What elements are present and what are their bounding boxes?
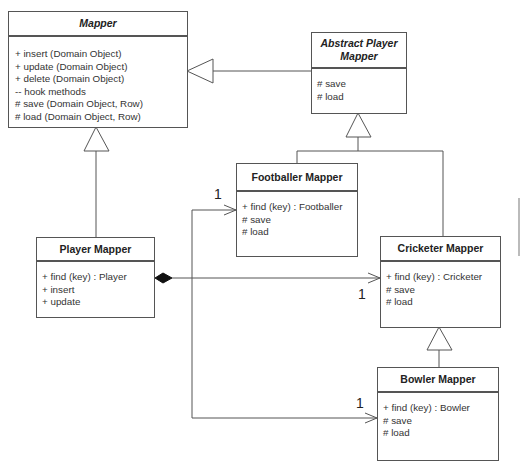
multiplicity-cricketer: 1	[358, 286, 366, 302]
multiplicity-footballer: 1	[214, 186, 222, 202]
class-mapper: Mapper + insert (Domain Object) + update…	[8, 11, 188, 128]
scan-edge-artifact	[518, 198, 520, 256]
class-name: Mapper	[9, 12, 187, 35]
class-bowler-mapper: Bowler Mapper + find (key) : Bowler # sa…	[377, 367, 499, 461]
operation: + update (Domain Object)	[15, 61, 187, 74]
class-cricketer-mapper: Cricketer Mapper + find (key) : Crickete…	[380, 236, 501, 328]
generalization-triangle-abstract-player	[346, 113, 371, 137]
multiplicity-bowler: 1	[356, 395, 364, 411]
operation: # save	[383, 415, 498, 428]
operation: # save	[317, 78, 406, 91]
operation: # load	[317, 91, 406, 104]
operation: + find (key) : Bowler	[383, 402, 498, 415]
operation: -- hook methods	[15, 86, 187, 99]
operation: # save (Domain Object, Row)	[15, 98, 187, 111]
generalization-triangle-cricketer	[427, 327, 452, 350]
operation: # save	[242, 214, 357, 227]
operations-compartment: + insert (Domain Object) + update (Domai…	[9, 42, 187, 123]
operation: + update	[42, 296, 154, 309]
operation: # load	[386, 296, 500, 309]
operations-compartment: + find (key) : Player + insert + update	[37, 267, 154, 309]
composition-diamond-icon	[155, 273, 172, 283]
class-name: Abstract Player Mapper	[312, 33, 406, 67]
generalization-triangle-mapper-right	[187, 59, 213, 83]
operations-compartment: + find (key) : Bowler # save # load	[378, 398, 498, 440]
class-abstract-player-mapper: Abstract Player Mapper # save # load	[311, 32, 407, 114]
class-footballer-mapper: Footballer Mapper + find (key) : Footbal…	[236, 163, 358, 257]
operation: + insert (Domain Object)	[15, 48, 187, 61]
operation: + find (key) : Player	[42, 271, 154, 284]
generalization-triangle-mapper-bottom	[84, 127, 109, 151]
operation: + find (key) : Footballer	[242, 201, 357, 214]
operation: + delete (Domain Object)	[15, 73, 187, 86]
class-player-mapper: Player Mapper + find (key) : Player + in…	[36, 237, 155, 318]
operations-compartment: + find (key) : Footballer # save # load	[237, 197, 357, 239]
class-name-line2: Mapper	[340, 50, 377, 63]
operation: # save	[386, 284, 500, 297]
class-name: Bowler Mapper	[378, 368, 498, 391]
operation: # load	[383, 427, 498, 440]
operations-compartment: + find (key) : Cricketer # save # load	[381, 267, 500, 309]
operations-compartment: # save # load	[312, 74, 406, 103]
operation: + insert	[42, 284, 154, 297]
class-name-line1: Abstract Player	[320, 37, 397, 50]
operation: # load	[242, 226, 357, 239]
class-name: Player Mapper	[37, 238, 154, 260]
operation: + find (key) : Cricketer	[386, 271, 500, 284]
class-name: Footballer Mapper	[237, 164, 357, 190]
operation: # load (Domain Object, Row)	[15, 111, 187, 124]
class-name: Cricketer Mapper	[381, 237, 500, 260]
